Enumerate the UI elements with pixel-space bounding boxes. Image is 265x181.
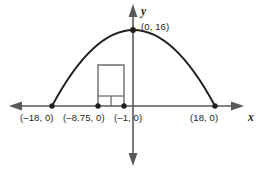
point-dot-rect-left	[95, 103, 100, 108]
y-axis-top-arrow-icon	[129, 4, 138, 17]
label-rect-right: (–1, 0)	[114, 113, 142, 123]
x-axis-left-arrow-icon	[9, 102, 22, 111]
label-rect-left: (–8.75, 0)	[63, 113, 105, 123]
x-axis-right-arrow-icon	[231, 102, 244, 111]
y-axis-label: y	[141, 6, 146, 18]
y-axis-bottom-arrow-icon	[129, 153, 138, 166]
label-left-root: (–18, 0)	[20, 113, 54, 123]
point-dot-rect-right	[121, 103, 126, 108]
label-vertex: (0, 16)	[141, 22, 169, 32]
point-dot-left-root	[49, 103, 54, 108]
point-dot-vertex	[130, 27, 136, 33]
coordinate-plane-svg	[0, 0, 265, 181]
label-right-root: (18, 0)	[190, 113, 218, 123]
graph-figure: (0, 16) (–18, 0) (–8.75, 0) (–1, 0) (18,…	[0, 0, 265, 181]
point-dot-right-root	[212, 103, 217, 108]
x-axis-label: x	[248, 112, 254, 124]
